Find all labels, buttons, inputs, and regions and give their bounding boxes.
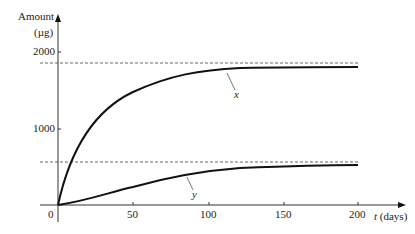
curve-y — [58, 165, 358, 205]
curve-x-label: x — [234, 88, 239, 100]
curve-y-label: y — [192, 188, 197, 200]
origin-label: 0 — [48, 208, 54, 220]
y-axis-unit: (µg) — [34, 26, 53, 38]
x-tick-50: 50 — [127, 208, 138, 220]
curve-x — [58, 67, 358, 205]
y-tick-1000: 1000 — [33, 122, 55, 134]
x-tick-150: 150 — [275, 208, 292, 220]
x-axis-arrow-icon — [398, 202, 406, 208]
y-tick-2000: 2000 — [33, 45, 55, 57]
x-axis-label: t (days) — [374, 210, 407, 222]
x-tick-200: 200 — [349, 208, 366, 220]
y-axis-arrow-icon — [55, 14, 61, 22]
x-tick-100: 100 — [200, 208, 217, 220]
y-axis-label: Amount — [18, 10, 54, 22]
chart-canvas — [0, 0, 415, 234]
